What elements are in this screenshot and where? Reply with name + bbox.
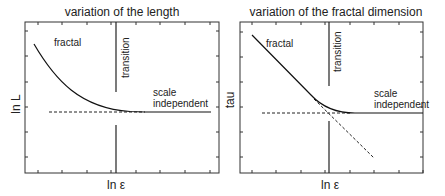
right-chart: variation of the fractal dimension fract… [223, 5, 429, 192]
figure: variation of the length frac [0, 0, 445, 196]
left-label-scale: scale [153, 87, 177, 98]
right-y-axis-label: tau [223, 92, 237, 109]
left-label-fractal: fractal [54, 37, 81, 48]
right-label-scale: scale [374, 88, 398, 99]
left-y-axis-label: ln L [9, 94, 23, 114]
right-x-axis-label: ln ε [321, 178, 340, 192]
right-label-fractal: fractal [266, 38, 293, 49]
left-label-independent: independent [153, 98, 208, 109]
left-x-axis-label: ln ε [107, 178, 126, 192]
left-chart: variation of the length frac [9, 5, 219, 192]
left-label-transition: transition [120, 37, 131, 78]
left-chart-title: variation of the length [65, 5, 180, 19]
right-chart-title: variation of the fractal dimension [250, 5, 423, 19]
right-dashed-diagonal-asymptote [314, 99, 374, 158]
right-label-independent: independent [374, 99, 429, 110]
right-label-transition: transition [332, 31, 343, 72]
